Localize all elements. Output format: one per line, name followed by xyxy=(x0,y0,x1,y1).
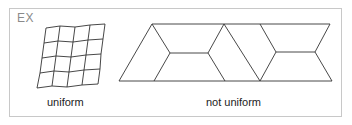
non-uniform-tiling xyxy=(119,24,332,81)
caption-uniform: uniform xyxy=(47,96,84,108)
uniform-grid xyxy=(37,24,105,88)
caption-not-uniform: not uniform xyxy=(206,96,261,108)
